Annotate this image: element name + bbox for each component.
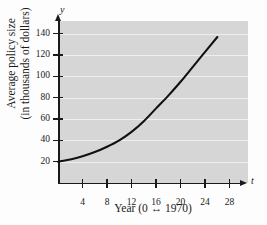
curve-layer: [0, 0, 267, 225]
chart-figure: y t 20406080100120140 481216202428 Avera…: [0, 0, 267, 225]
y-axis-title-line1: Average policy size: [5, 0, 19, 144]
data-curve: [58, 37, 217, 162]
x-axis-title: Year (0 ↔ 1970): [58, 203, 248, 215]
y-axis-title: Average policy size (in thousands of dol…: [5, 0, 32, 144]
y-axis-title-line2: (in thousands of dollars): [18, 0, 32, 144]
